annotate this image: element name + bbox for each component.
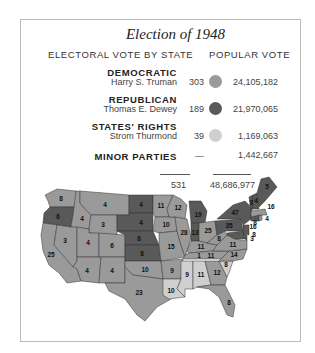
legend-row-minor-parties: MINOR PARTIES — 1,442,667 [21, 145, 300, 171]
state-ev-label: 14 [230, 251, 238, 258]
popular-vote-header: POPULAR VOTE [209, 49, 290, 60]
state-ev-label: 8 [224, 261, 228, 268]
state-ev-label: 15 [167, 243, 175, 250]
state-ev-label: 4 [110, 267, 114, 274]
state-ev-label: 10 [141, 266, 149, 273]
state-ev-label: 4 [103, 201, 107, 208]
state-ev-label: 23 [135, 289, 143, 296]
state-ri [259, 215, 262, 221]
state-ev-label: 8 [59, 195, 63, 202]
election-infographic: Election of 1948 ELECTORAL VOTE BY STATE… [20, 19, 301, 342]
state-ev-label: 8 [253, 219, 257, 226]
state-sd [117, 213, 153, 231]
candidate-name: Thomas E. Dewey [103, 104, 177, 114]
state-ev-label: 12 [174, 204, 182, 211]
popular-votes: 21,970,065 [228, 104, 278, 114]
electoral-votes: 303 [184, 77, 204, 87]
electoral-votes: — [184, 151, 204, 161]
state-ev-label: 4 [86, 239, 90, 246]
state-ev-label: 3 [101, 221, 105, 228]
state-ev-label: 25 [47, 251, 55, 258]
state-ev-label: 35 [225, 222, 233, 229]
state-ev-label: 11 [198, 243, 205, 250]
state-ev-label: 8 [227, 299, 231, 306]
state-ev-label: 11 [198, 271, 205, 278]
state-ev-label: 3 [249, 199, 253, 206]
state-ev-label: 4 [139, 219, 143, 226]
legend-swatch-republican [209, 102, 222, 115]
candidate-name: Strom Thurmond [110, 131, 177, 141]
state-ev-label: 12 [213, 269, 221, 276]
popular-votes: 1,442,667 [228, 150, 278, 160]
state-ev-label: 11 [158, 202, 165, 209]
state-ev-label: 4 [139, 201, 143, 208]
state-ev-label: 8 [217, 235, 221, 242]
state-ev-label: 5 [265, 183, 269, 190]
state-ev-label: 13 [191, 229, 199, 236]
state-ev-label: 9 [185, 271, 189, 278]
legend-row-democratic: DEMOCRATIC Harry S. Truman 303 24,105,18… [21, 67, 300, 93]
state-ev-label: 8 [252, 231, 256, 238]
state-ev-label: 9 [170, 267, 174, 274]
popular-votes: 24,105,182 [228, 77, 278, 87]
state-ev-label: 10 [167, 287, 175, 294]
state-ev-label: 28 [180, 229, 188, 236]
candidate-name: Harry S. Truman [111, 77, 177, 87]
state-ev-label: 6 [56, 213, 60, 220]
us-electoral-map: 8625434344644468102311101591012281913251… [21, 175, 300, 341]
state-ev-label: 4 [85, 267, 89, 274]
chart-title: Election of 1948 [21, 26, 300, 43]
state-ev-label: 3 [63, 237, 67, 244]
party-name: MINOR PARTIES [94, 151, 177, 162]
state-ev-label: 4 [80, 215, 84, 222]
state-ev-label: 1 [197, 252, 201, 259]
state-ev-label: 19 [194, 211, 202, 218]
legend-row-republican: REPUBLICAN Thomas E. Dewey 189 21,970,06… [21, 94, 300, 120]
legend-swatch-states-rights [209, 129, 222, 142]
electoral-votes: 39 [184, 131, 204, 141]
state-ev-label: 4 [254, 197, 258, 204]
state-ev-label: 25 [204, 227, 212, 234]
state-ev-label: 6 [110, 242, 114, 249]
electoral-vote-header: ELECTORAL VOTE BY STATE [48, 49, 193, 60]
state-ev-label: 10 [162, 221, 170, 228]
state-ev-label: 11 [208, 252, 215, 259]
legend-swatch-democratic [209, 75, 222, 88]
electoral-votes: 189 [184, 104, 204, 114]
state-ev-label: 16 [267, 203, 275, 210]
state-ev-label: 6 [137, 235, 141, 242]
state-ev-label: 47 [231, 209, 239, 216]
state-ev-label: 11 [230, 241, 237, 248]
popular-votes: 1,169,063 [228, 131, 278, 141]
state-ev-label: 4 [265, 215, 269, 222]
legend-row-states-rights: STATES' RIGHTS Strom Thurmond 39 1,169,0… [21, 121, 300, 147]
state-ev-label: 8 [140, 250, 144, 257]
